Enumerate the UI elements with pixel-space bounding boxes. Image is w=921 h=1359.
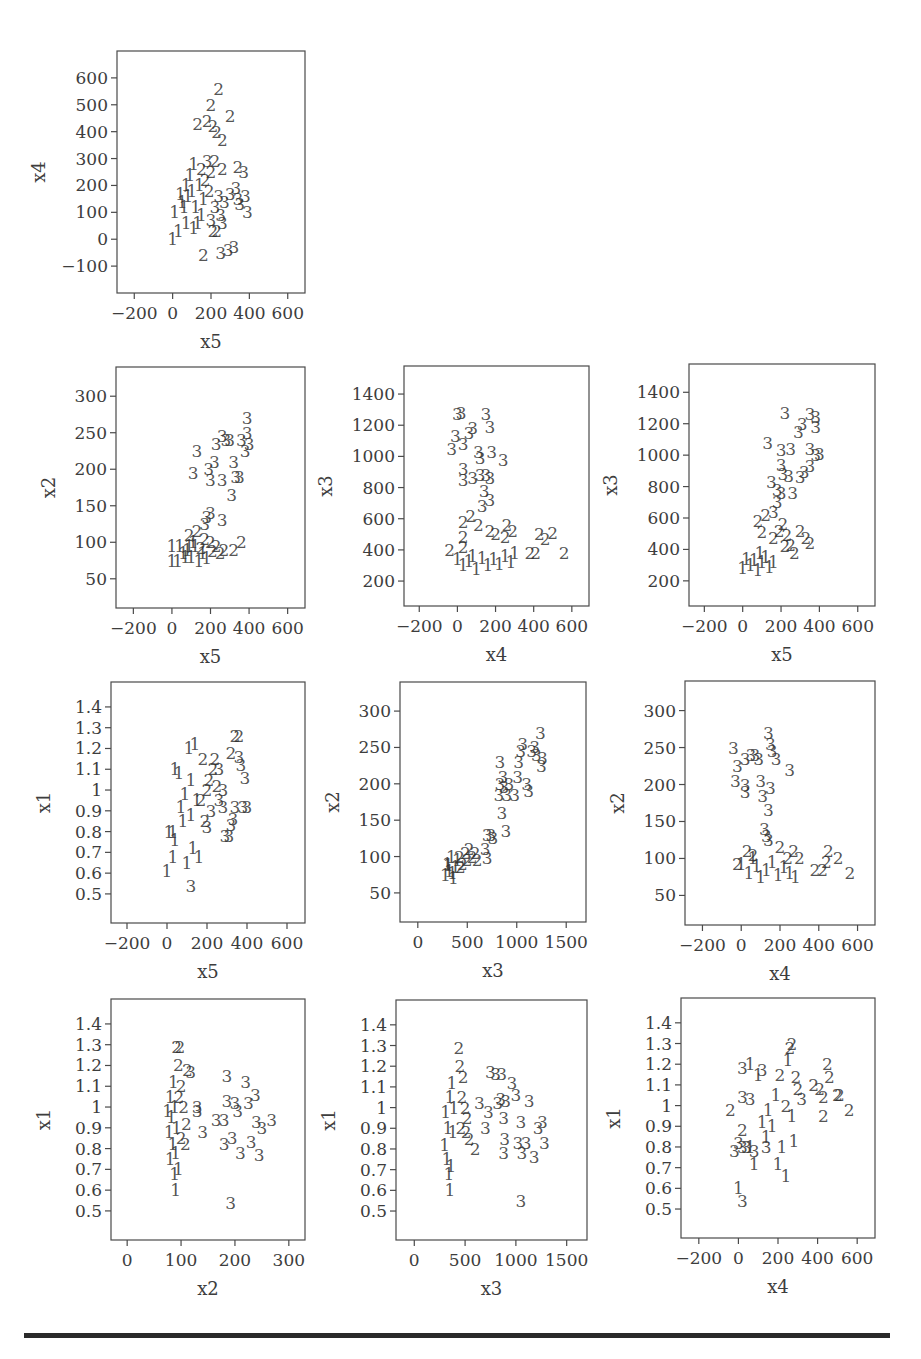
x-tick-label: 0 bbox=[733, 1248, 744, 1268]
y-axis-label: x1 bbox=[603, 1107, 624, 1129]
data-point-label-1: 1 bbox=[788, 1131, 799, 1151]
data-point-label-3: 3 bbox=[202, 151, 213, 171]
data-point-label-2: 2 bbox=[454, 1038, 465, 1058]
data-point-label-3: 3 bbox=[266, 1110, 277, 1130]
y-tick-label: 1.2 bbox=[75, 738, 102, 758]
x-axis-label: x4 bbox=[769, 963, 791, 984]
y-axis-label: x4 bbox=[28, 161, 49, 183]
x-tick-label: −200 bbox=[681, 616, 728, 636]
data-point-label-3: 3 bbox=[221, 1066, 232, 1086]
x-tick-label: 1000 bbox=[495, 932, 538, 952]
y-tick-label: 50 bbox=[369, 883, 391, 903]
y-tick-label: 800 bbox=[648, 477, 680, 497]
data-point-label-3: 3 bbox=[232, 189, 243, 209]
data-point-label-3: 3 bbox=[523, 781, 534, 801]
data-point-label-3: 3 bbox=[219, 1110, 230, 1130]
y-tick-label: 1.4 bbox=[75, 697, 102, 717]
data-point-label-3: 3 bbox=[737, 1191, 748, 1211]
scatter-panel-x4_vs_x5: −2000200400600−1000100200300400500600x5x… bbox=[28, 51, 305, 352]
data-point-label-3: 3 bbox=[498, 450, 509, 470]
y-axis-label: x2 bbox=[322, 791, 343, 813]
x-tick-label: 1000 bbox=[494, 1250, 537, 1270]
data-point-label-3: 3 bbox=[814, 444, 825, 464]
data-point-label-3: 3 bbox=[539, 1133, 550, 1153]
data-point-label-3: 3 bbox=[218, 780, 229, 800]
x-tick-label: 400 bbox=[803, 935, 835, 955]
data-points: 1111111111111111112222222222222222223333… bbox=[167, 79, 253, 266]
y-tick-label: 1400 bbox=[637, 382, 680, 402]
data-point-label-1: 1 bbox=[445, 1156, 456, 1176]
x-tick-label: 100 bbox=[165, 1250, 197, 1270]
data-point-label-1: 1 bbox=[509, 543, 520, 563]
data-point-label-3: 3 bbox=[254, 1145, 265, 1165]
data-point-label-2: 2 bbox=[507, 521, 518, 541]
y-tick-label: 1.3 bbox=[75, 718, 102, 738]
data-point-label-3: 3 bbox=[537, 1112, 548, 1132]
y-tick-label: 0.8 bbox=[75, 822, 102, 842]
data-point-label-3: 3 bbox=[186, 876, 197, 896]
y-tick-label: 0.6 bbox=[75, 1180, 102, 1200]
data-point-label-2: 2 bbox=[473, 515, 484, 535]
y-tick-label: 1400 bbox=[352, 384, 395, 404]
x-tick-label: 600 bbox=[841, 1248, 873, 1268]
y-tick-label: 0.9 bbox=[75, 1118, 102, 1138]
y-axis-label: x1 bbox=[33, 792, 54, 814]
data-point-label-2: 2 bbox=[824, 1067, 835, 1087]
y-tick-label: 50 bbox=[654, 885, 676, 905]
data-points: 1111111111111111222222222222222223333333… bbox=[725, 1034, 855, 1211]
data-point-label-2: 2 bbox=[789, 543, 800, 563]
data-point-label-3: 3 bbox=[214, 759, 225, 779]
data-point-label-3: 3 bbox=[762, 433, 773, 453]
y-tick-label: 150 bbox=[644, 811, 676, 831]
data-point-label-3: 3 bbox=[484, 417, 495, 437]
x-tick-label: 200 bbox=[195, 303, 227, 323]
scatter-panel-x2_vs_x4: −200020040060050100150200250300x4x211111… bbox=[607, 681, 876, 984]
scatterplot-matrix: −2000200400600−1000100200300400500600x5x… bbox=[0, 0, 921, 1359]
x-tick-label: 0 bbox=[736, 935, 747, 955]
x-tick-label: 600 bbox=[272, 303, 304, 323]
data-point-label-3: 3 bbox=[456, 403, 467, 423]
data-point-label-3: 3 bbox=[509, 785, 520, 805]
data-point-label-3: 3 bbox=[779, 403, 790, 423]
x-tick-label: −200 bbox=[110, 618, 157, 638]
data-point-label-3: 3 bbox=[188, 463, 199, 483]
data-point-label-3: 3 bbox=[757, 1060, 768, 1080]
bottom-rule bbox=[24, 1333, 890, 1338]
y-tick-label: 1.2 bbox=[75, 1055, 102, 1075]
x-tick-label: 600 bbox=[556, 616, 588, 636]
y-tick-label: 1.3 bbox=[645, 1034, 672, 1054]
y-tick-label: 0.9 bbox=[360, 1118, 387, 1138]
data-point-label-2: 2 bbox=[818, 1087, 829, 1107]
data-point-label-2: 2 bbox=[786, 1034, 797, 1054]
data-point-label-2: 2 bbox=[775, 1065, 786, 1085]
x-tick-label: 1500 bbox=[545, 932, 588, 952]
y-tick-label: 1000 bbox=[637, 445, 680, 465]
data-point-label-3: 3 bbox=[763, 830, 774, 850]
data-points: 1111111111111111112222222222233333333333… bbox=[162, 726, 253, 896]
y-tick-label: 200 bbox=[644, 775, 676, 795]
y-tick-label: 0 bbox=[97, 229, 108, 249]
data-point-label-3: 3 bbox=[224, 430, 235, 450]
x-tick-label: −200 bbox=[111, 303, 158, 323]
data-point-label-3: 3 bbox=[499, 1129, 510, 1149]
y-tick-label: 0.9 bbox=[645, 1116, 672, 1136]
data-point-label-3: 3 bbox=[761, 1137, 772, 1157]
y-tick-label: 0.6 bbox=[360, 1180, 387, 1200]
data-point-label-1: 1 bbox=[781, 1166, 792, 1186]
x-axis-label: x5 bbox=[200, 646, 222, 667]
y-tick-label: 200 bbox=[648, 571, 680, 591]
y-tick-label: 0.7 bbox=[360, 1160, 387, 1180]
y-tick-label: 0.6 bbox=[75, 863, 102, 883]
y-tick-label: 300 bbox=[644, 701, 676, 721]
scatter-panel-x1_vs_x2: 01002003000.50.60.70.80.911.11.21.31.4x2… bbox=[33, 999, 306, 1299]
y-tick-label: 0.7 bbox=[75, 1159, 102, 1179]
y-tick-label: 1.4 bbox=[75, 1014, 102, 1034]
data-point-label-3: 3 bbox=[486, 442, 497, 462]
y-tick-label: 150 bbox=[75, 496, 107, 516]
data-point-label-3: 3 bbox=[242, 202, 253, 222]
y-tick-label: 250 bbox=[359, 737, 391, 757]
data-point-label-2: 2 bbox=[818, 1106, 829, 1126]
data-point-label-3: 3 bbox=[765, 778, 776, 798]
data-point-label-3: 3 bbox=[467, 418, 478, 438]
y-tick-label: −100 bbox=[61, 256, 108, 276]
